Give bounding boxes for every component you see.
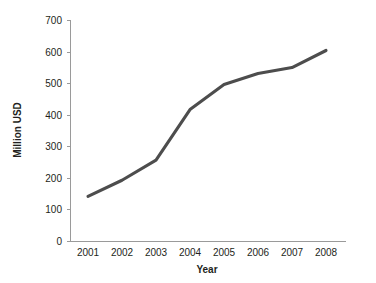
x-tick-label-2006: 2006	[247, 247, 270, 258]
y-axis-tick-labels: 700 600 500 400 300 200 100 0	[45, 15, 62, 247]
x-tick-label-2002: 2002	[111, 247, 134, 258]
x-tick-label-2005: 2005	[213, 247, 236, 258]
data-series-line	[88, 50, 326, 196]
line-chart: 700 600 500 400 300 200 100 0 2001 2002 …	[0, 0, 376, 283]
x-tick-label-2004: 2004	[179, 247, 202, 258]
y-tick-label-300: 300	[45, 141, 62, 152]
x-tick-label-2001: 2001	[77, 247, 100, 258]
x-axis-tick-labels: 2001 2002 2003 2004 2005 2006 2007 2008	[77, 247, 338, 258]
y-tick-label-0: 0	[56, 236, 62, 247]
chart-canvas: 700 600 500 400 300 200 100 0 2001 2002 …	[0, 0, 376, 283]
y-tick-label-600: 600	[45, 47, 62, 58]
y-axis-title: Million USD	[12, 102, 23, 158]
y-axis-ticks	[67, 21, 71, 242]
y-tick-label-100: 100	[45, 204, 62, 215]
x-tick-label-2007: 2007	[281, 247, 304, 258]
x-axis-title: Year	[196, 264, 217, 275]
y-tick-label-200: 200	[45, 173, 62, 184]
x-tick-label-2008: 2008	[315, 247, 338, 258]
y-tick-label-400: 400	[45, 110, 62, 121]
x-tick-label-2003: 2003	[145, 247, 168, 258]
y-tick-label-500: 500	[45, 78, 62, 89]
y-tick-label-700: 700	[45, 15, 62, 26]
